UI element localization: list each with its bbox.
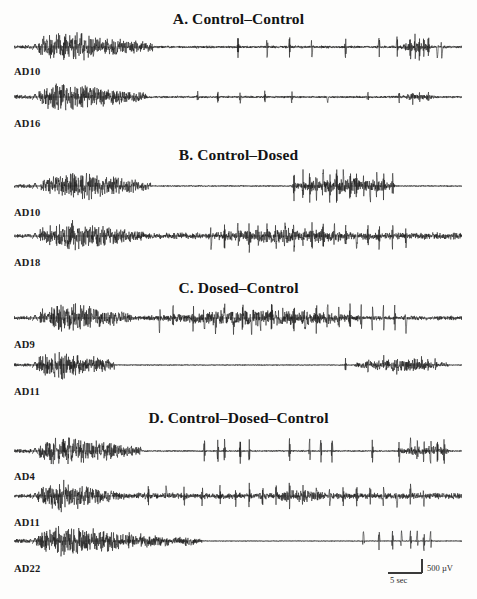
trace-label-ad10: AD10 [14,207,40,218]
scale-bar-time-line [388,572,422,574]
panel-title-d: D. Control–Dosed–Control [0,409,477,427]
trace-waveform-ad4 [14,434,462,468]
trace-waveform-ad18 [14,219,462,253]
figure-canvas: A. Control–Control B. Control–Dosed C. D… [0,0,477,599]
trace-waveform-ad11 [14,348,462,382]
trace-waveform-ad22 [14,524,462,558]
scale-bar-voltage-line [421,559,423,573]
scale-bar-time-label: 5 sec [390,575,407,585]
panel-title-a: A. Control–Control [0,10,477,28]
trace-waveform-ad9 [14,301,462,335]
trace-label-ad10: AD10 [14,66,40,77]
panel-title-c: C. Dosed–Control [0,279,477,297]
trace-waveform-ad10 [14,169,462,203]
trace-waveform-ad10 [14,30,462,64]
trace-label-ad11: AD11 [14,386,40,397]
trace-label-ad22: AD22 [14,563,40,574]
trace-label-ad16: AD16 [14,118,40,129]
scale-bar-voltage-label: 500 µV [427,563,453,573]
trace-waveform-ad11 [14,479,462,513]
trace-label-ad18: AD18 [14,257,40,268]
panel-title-b: B. Control–Dosed [0,146,477,164]
trace-waveform-ad16 [14,80,462,114]
